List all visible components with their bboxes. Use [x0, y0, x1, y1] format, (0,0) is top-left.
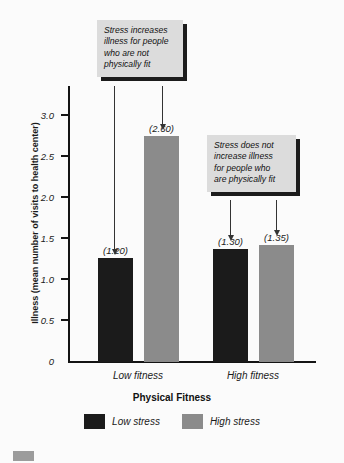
plot-area: (1.20) (2.60) (1.30) (1.35) — [68, 88, 316, 362]
group-label-low-fitness: Low fitness — [113, 370, 163, 381]
callout-fit-line-1: Stress does not — [214, 140, 289, 151]
y-tick-label-0: 0 — [49, 356, 54, 367]
legend-item-low-stress: Low stress — [84, 414, 160, 429]
y-axis-title: Illness (mean number of visits to health… — [30, 98, 40, 348]
arrow-head-to-1.20 — [112, 249, 118, 255]
y-tick-label-3.0: 3.0 — [41, 110, 54, 121]
legend-item-high-stress: High stress — [182, 414, 260, 429]
callout-fit-line-4: are physically fit — [214, 174, 289, 185]
bar-low-fitness-high-stress — [144, 136, 179, 362]
arrow-shaft-to-1.35 — [276, 200, 277, 232]
callout-not-fit-line-3: who are not — [104, 48, 176, 59]
bar-high-fitness-high-stress — [259, 245, 294, 362]
arrow-shaft-to-1.30 — [230, 200, 231, 237]
legend-label-high-stress: High stress — [210, 416, 260, 427]
page-corner-artifact — [13, 451, 34, 461]
y-tick-label-2.0: 2.0 — [41, 192, 54, 203]
chart-figure: Illness (mean number of visits to health… — [0, 0, 344, 463]
y-tick-label-2.5: 2.5 — [41, 151, 54, 162]
callout-not-fit: Stress increases illness for people who … — [97, 20, 183, 77]
arrow-shaft-to-2.60 — [162, 86, 163, 126]
y-tick-label-1.5: 1.5 — [41, 233, 54, 244]
legend-swatch-high-stress-icon — [182, 414, 203, 429]
bar-high-fitness-low-stress — [213, 249, 248, 362]
x-axis-title: Physical Fitness — [0, 392, 344, 403]
legend-swatch-low-stress-icon — [84, 414, 105, 429]
arrow-head-to-1.30 — [228, 235, 234, 241]
callout-not-fit-line-4: physically fit — [104, 59, 176, 70]
legend-label-low-stress: Low stress — [112, 416, 160, 427]
bar-low-fitness-low-stress — [98, 258, 133, 362]
callout-fit-line-3: for people who — [214, 163, 289, 174]
arrow-head-to-1.35 — [274, 230, 280, 236]
arrow-shaft-to-1.20 — [114, 86, 115, 251]
legend: Low stress High stress — [0, 414, 344, 429]
arrow-head-to-2.60 — [160, 124, 166, 130]
callout-fit-line-2: increase illness — [214, 151, 289, 162]
callout-not-fit-line-1: Stress increases — [104, 25, 176, 36]
y-tick-label-0.5: 0.5 — [41, 315, 54, 326]
y-tick-label-1.0: 1.0 — [41, 274, 54, 285]
group-label-high-fitness: High fitness — [227, 370, 279, 381]
callout-not-fit-line-2: illness for people — [104, 36, 176, 47]
callout-fit: Stress does not increase illness for peo… — [207, 135, 296, 192]
